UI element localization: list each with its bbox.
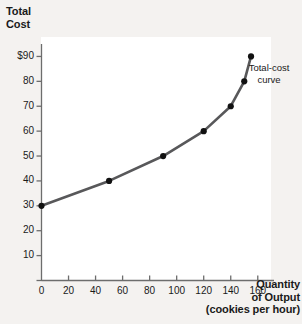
chart-canvas [0, 0, 302, 324]
x-axis-tick-label: 60 [110, 285, 136, 296]
x-axis-tick-label: 80 [137, 285, 163, 296]
y-axis-tick-label: 70 [0, 100, 34, 111]
data-series-total-cost [38, 53, 254, 209]
data-point-marker [228, 103, 234, 109]
y-axis-title-line-2: Cost [6, 18, 30, 30]
x-axis-ticks [69, 276, 258, 281]
data-point-marker [160, 153, 166, 159]
y-axis-title: Total Cost [6, 5, 52, 30]
data-point-marker [38, 203, 44, 209]
y-axis-tick-label: 80 [0, 75, 34, 86]
y-axis-title-line-1: Total [6, 5, 31, 17]
data-point-marker [201, 128, 207, 134]
x-axis-tick-label: 160 [245, 285, 271, 296]
chart-figure: Total Cost Quantity of Output (cookies p… [0, 0, 302, 324]
annotation-line-2: curve [238, 74, 300, 86]
x-axis-tick-label: 120 [191, 285, 217, 296]
total-cost-curve-line [42, 56, 252, 205]
y-axis-tick-label: 50 [0, 150, 34, 161]
x-axis-tick-label: 40 [83, 285, 109, 296]
y-axis-tick-label: 30 [0, 199, 34, 210]
x-axis-tick-label: 100 [164, 285, 190, 296]
x-axis-title-line-3: (cookies per hour) [190, 303, 300, 316]
y-axis-tick-label: $90 [0, 50, 34, 61]
x-axis-tick-label: 20 [56, 285, 82, 296]
y-axis-ticks [37, 56, 42, 280]
annotation-line-1: Total-cost [238, 62, 300, 74]
y-axis-tick-label: 20 [0, 224, 34, 235]
data-point-marker [106, 178, 112, 184]
x-axis-tick-label: 0 [29, 285, 55, 296]
total-cost-data-points [38, 53, 254, 209]
x-axis-tick-label: 140 [218, 285, 244, 296]
data-point-marker [248, 53, 254, 59]
y-axis-tick-label: 40 [0, 174, 34, 185]
y-axis-tick-label: 10 [0, 249, 34, 260]
total-cost-curve-annotation: Total-cost curve [238, 62, 300, 86]
y-axis-tick-label: 60 [0, 125, 34, 136]
